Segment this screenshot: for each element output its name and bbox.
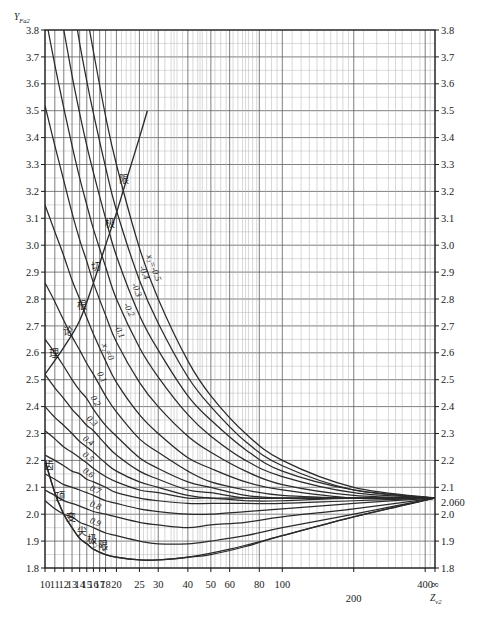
y-tick-label-right: 3.0: [441, 240, 454, 251]
y-tick-label-right: 2.0: [441, 509, 454, 520]
y-tick-label: 3.8: [26, 25, 39, 36]
x-tick-label: 200: [346, 593, 362, 604]
y-tick-label-right: 3.8: [441, 25, 454, 36]
x-axis-title-sub: v2: [435, 598, 442, 605]
y-tick-label-right: 3.1: [441, 213, 454, 224]
y-tick-label: 2.1: [26, 482, 39, 493]
y-tick-label: 3.4: [26, 132, 40, 143]
y-tick-label: 2.2: [26, 455, 39, 466]
annotation-char: 极: [105, 217, 115, 229]
annotation-char: 尖: [77, 525, 87, 537]
annotation-char: 限: [98, 540, 108, 551]
x-tick-label: 20: [111, 579, 122, 590]
annotation-char: 变: [66, 511, 76, 523]
y-tick-label: 2.4: [26, 401, 40, 412]
y-tick-label-right: 2.7: [441, 321, 454, 332]
x-tick-label: 100: [274, 579, 290, 590]
x-tick-label: 10: [40, 579, 51, 590]
y-tick-label: 2.0: [26, 509, 39, 520]
y-tick-label-right: 1.8: [441, 563, 454, 574]
y-tick-label: 1.8: [26, 563, 39, 574]
y-tick-label-right: 3.7: [441, 52, 454, 63]
y-tick-label: 3.6: [26, 78, 39, 89]
y-tick-label: 2.5: [26, 374, 39, 385]
grid-lines: [45, 30, 435, 568]
y-tick-label-right: 3.6: [441, 78, 454, 89]
y-tick-label-right: 2.4: [441, 401, 455, 412]
y-tick-label: 3.7: [26, 52, 39, 63]
x-tick-label: 80: [254, 579, 265, 590]
annotation-char: 根: [77, 299, 87, 311]
y-tick-label-right: 2.1: [441, 482, 454, 493]
annotation-char: 极: [87, 533, 97, 545]
y-tick-label-right: 2.8: [441, 294, 454, 305]
y-tick-label-right: 2.6: [441, 347, 454, 358]
y-tick-label-right: 2.3: [441, 428, 454, 439]
annotation-char: 齿: [44, 460, 54, 471]
annotation-char: 顶: [55, 491, 65, 502]
y-axis-title-sub: Fa2: [18, 17, 30, 24]
x-tick-label: ∞: [431, 579, 439, 590]
x-tick-label: 40: [183, 579, 194, 590]
gear-form-factor-chart: x₂=-0.5-0.4-0.3-0.2-0.1x₂=00.10.20.30.40…: [0, 0, 484, 627]
x-tick-label: 25: [134, 579, 145, 590]
chart-canvas: x₂=-0.5-0.4-0.3-0.2-0.1x₂=00.10.20.30.40…: [0, 0, 484, 627]
y-tick-label-right: 2.9: [441, 267, 454, 278]
y-tick-label-right: 1.9: [441, 536, 454, 547]
y-tick-label-right: 3.4: [441, 132, 455, 143]
y-tick-label-right: 3.3: [441, 159, 454, 170]
y-tick-label-right: 2.2: [441, 455, 454, 466]
y-tick-label: 2.6: [26, 347, 39, 358]
y-tick-label: 1.9: [26, 536, 39, 547]
y-tick-label: 2.9: [26, 267, 39, 278]
annotation-char: 理: [49, 348, 59, 359]
y-tick-label-right: 3.5: [441, 105, 454, 116]
annotation-char: 限: [119, 174, 129, 185]
x-tick-label: 30: [153, 579, 164, 590]
annotation-char: 切: [91, 261, 101, 272]
x-tick-label: 50: [206, 579, 217, 590]
y-tick-label-special: 2.060: [441, 497, 465, 508]
y-tick-label: 3.1: [26, 213, 39, 224]
y-tick-label: 3.2: [26, 186, 39, 197]
y-tick-label-right: 3.2: [441, 186, 454, 197]
annotation-char: 论: [63, 325, 73, 337]
y-tick-label: 2.8: [26, 294, 39, 305]
y-tick-label: 3.0: [26, 240, 39, 251]
y-tick-label: 3.3: [26, 159, 39, 170]
x-tick-label: 60: [224, 579, 235, 590]
x-tick-label: 18: [100, 579, 111, 590]
y-tick-label: 2.7: [26, 321, 39, 332]
y-tick-label: 3.5: [26, 105, 39, 116]
y-tick-label: 2.3: [26, 428, 39, 439]
y-tick-label-right: 2.5: [441, 374, 454, 385]
